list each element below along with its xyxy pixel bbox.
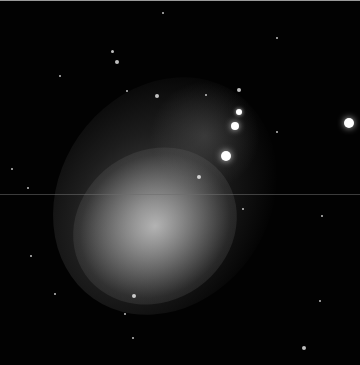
star: [236, 109, 242, 115]
star: [197, 175, 201, 179]
star: [111, 50, 114, 53]
star: [115, 60, 119, 64]
star: [155, 94, 159, 98]
star: [344, 118, 354, 128]
star: [276, 37, 278, 39]
star: [205, 94, 207, 96]
star: [132, 337, 134, 339]
galaxy-image: irregular dwarf galaxy star field: [0, 0, 360, 365]
star: [126, 90, 128, 92]
star: [54, 293, 56, 295]
scan-line-artifact: [0, 194, 360, 195]
star: [124, 313, 126, 315]
star: [221, 151, 231, 161]
star: [59, 75, 61, 77]
star: [11, 168, 13, 170]
star: [319, 300, 321, 302]
star: [242, 208, 244, 210]
star: [27, 187, 29, 189]
star: [231, 122, 239, 130]
star: [132, 294, 136, 298]
star: [302, 346, 306, 350]
star: [237, 88, 241, 92]
star: [162, 12, 164, 14]
star: [321, 215, 323, 217]
star: [276, 131, 278, 133]
star: [30, 255, 32, 257]
